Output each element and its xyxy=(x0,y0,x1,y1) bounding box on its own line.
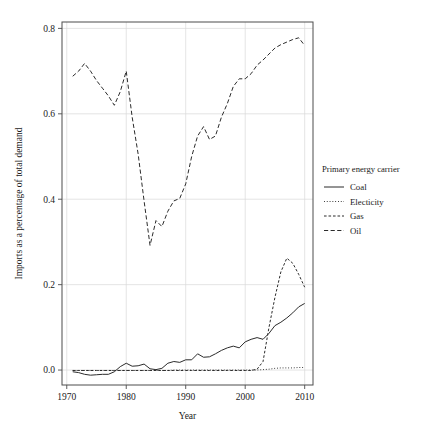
legend-label-oil: Oil xyxy=(350,226,362,236)
y-tick-label: 0.2 xyxy=(43,280,55,290)
x-axis-title: Year xyxy=(179,411,197,421)
x-tick-label: 2000 xyxy=(236,392,255,402)
x-tick-label: 1990 xyxy=(176,392,195,402)
y-tick-label: 0.0 xyxy=(43,365,55,375)
x-tick-label: 1980 xyxy=(117,392,136,402)
y-axis-title: Imports as a percentage of total demand xyxy=(14,127,24,279)
chart-figure: 19701980199020002010 0.00.20.40.60.8 Yea… xyxy=(0,0,438,443)
y-tick-label: 0.8 xyxy=(43,24,55,34)
legend-label-electicity: Electicity xyxy=(350,197,384,207)
plot-panel-background xyxy=(62,22,313,385)
legend-label-gas: Gas xyxy=(350,211,364,221)
y-tick-label: 0.4 xyxy=(43,195,55,205)
legend-title: Primary energy carrier xyxy=(322,164,400,174)
x-tick-label: 2010 xyxy=(295,392,314,402)
imports-line-chart: 19701980199020002010 0.00.20.40.60.8 Yea… xyxy=(0,0,438,443)
legend-label-coal: Coal xyxy=(350,182,367,192)
x-tick-label: 1970 xyxy=(57,392,76,402)
y-tick-label: 0.6 xyxy=(43,109,55,119)
